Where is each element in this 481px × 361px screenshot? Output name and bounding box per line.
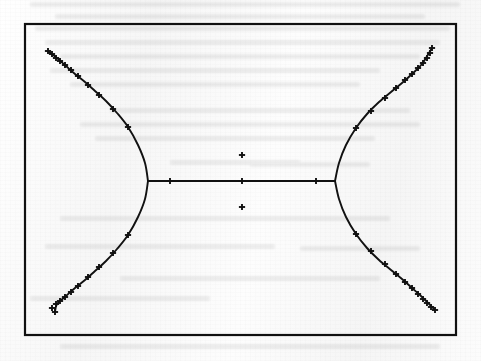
plus-marker: [313, 178, 319, 184]
plus-marker: [167, 178, 173, 184]
figure-plot-area: [0, 0, 481, 361]
plot-frame: [25, 24, 456, 335]
plus-marker: [239, 178, 245, 184]
isolated-plus-marker: [239, 204, 245, 210]
isolated-plus-marker: [239, 152, 245, 158]
scanned-page: [0, 0, 481, 361]
plot-frame-rect: [25, 24, 456, 335]
plot-markers: [45, 45, 438, 315]
curve-lower-right-branch: [335, 181, 435, 310]
curve-upper-left-branch: [48, 51, 148, 181]
